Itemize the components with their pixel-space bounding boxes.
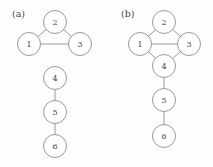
edge-1-4 [148, 52, 155, 58]
node-label-4: 4 [52, 74, 57, 83]
node-label-2: 2 [161, 18, 166, 27]
panel-label-a: (a) [12, 8, 25, 19]
edge-1-2 [148, 30, 155, 36]
node-label-5: 5 [52, 108, 57, 117]
node-label-6: 6 [161, 132, 166, 141]
node-label-3: 3 [77, 40, 82, 49]
nodes-layer: 123456123456 [18, 11, 201, 158]
graph-node-5[interactable]: 5 [153, 89, 176, 112]
graph-node-1[interactable]: 1 [129, 33, 152, 56]
graph-figure: 123456123456 (a)(b) [0, 0, 213, 167]
graph-node-2[interactable]: 2 [44, 11, 67, 34]
edge-2-3 [64, 30, 72, 37]
panel-labels-layer: (a)(b) [12, 8, 135, 19]
panel-label-b: (b) [121, 8, 135, 19]
graph-node-3[interactable]: 3 [178, 33, 201, 56]
figure-container: 123456123456 (a)(b) [0, 0, 213, 167]
node-label-6: 6 [52, 142, 57, 151]
graph-node-1[interactable]: 1 [18, 33, 41, 56]
graph-node-4[interactable]: 4 [153, 55, 176, 78]
graph-node-4[interactable]: 4 [44, 67, 67, 90]
edge-3-4 [173, 52, 181, 59]
node-label-5: 5 [161, 96, 166, 105]
graph-node-5[interactable]: 5 [44, 101, 67, 124]
edge-1-2 [38, 29, 46, 36]
graph-node-6[interactable]: 6 [153, 125, 176, 148]
node-label-3: 3 [186, 40, 191, 49]
node-label-1: 1 [137, 40, 142, 49]
node-label-4: 4 [161, 62, 166, 71]
graph-node-2[interactable]: 2 [153, 11, 176, 34]
node-label-1: 1 [26, 40, 31, 49]
node-label-2: 2 [52, 18, 57, 27]
graph-node-3[interactable]: 3 [69, 33, 92, 56]
graph-node-6[interactable]: 6 [44, 135, 67, 158]
edge-2-3 [173, 30, 181, 37]
